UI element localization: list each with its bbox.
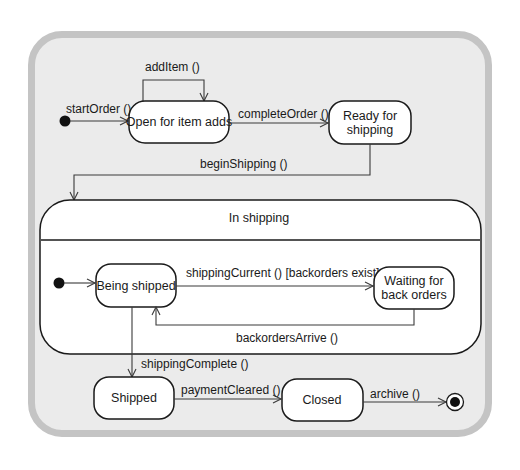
state-open-label: Open for item adds (126, 115, 232, 129)
state-being-shipped-label: Being shipped (96, 279, 175, 293)
state-in-shipping-label: In shipping (229, 211, 290, 225)
label-shipping-current: shippingCurrent () [backorders exist] (186, 266, 379, 280)
state-diagram: startOrder () addItem () Open for item a… (0, 0, 520, 470)
inner-initial-state-icon (54, 278, 65, 289)
state-ready-label-line1: Ready for (343, 109, 397, 123)
label-complete-order: completeOrder () (238, 107, 329, 121)
label-payment-cleared: paymentCleared () (181, 383, 280, 397)
final-state-dot-icon (450, 397, 460, 407)
label-start-order: startOrder () (66, 102, 131, 116)
label-archive: archive () (370, 387, 420, 401)
state-shipped-label: Shipped (111, 391, 157, 405)
label-add-item: addItem () (145, 60, 200, 74)
initial-state-icon (60, 116, 71, 127)
edge-add-item (143, 80, 204, 101)
state-waiting-label-line1: Waiting for (384, 274, 443, 288)
label-shipping-complete: shippingComplete () (141, 357, 248, 371)
state-waiting-label-line2: back orders (381, 288, 446, 302)
label-begin-shipping: beginShipping () (200, 157, 287, 171)
label-backorders-arrive: backordersArrive () (236, 331, 338, 345)
state-ready-label-line2: shipping (347, 123, 394, 137)
edge-begin-shipping (74, 144, 370, 200)
state-closed-label: Closed (303, 393, 342, 407)
